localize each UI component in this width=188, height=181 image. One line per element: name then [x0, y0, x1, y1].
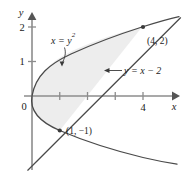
point-dot-1-neg1: [58, 128, 62, 132]
point-label-4-2: (4, 2): [147, 36, 168, 47]
shaded-region: [32, 27, 142, 131]
parabola-equation-base: x = y: [50, 35, 72, 46]
origin-label: 0: [21, 101, 26, 112]
point-dot-4-2: [141, 25, 145, 29]
line-equation-label: y = x − 2: [123, 65, 161, 76]
x-axis-arrowhead: [172, 92, 180, 101]
y-axis-arrowhead: [28, 12, 37, 20]
y-tick-label-1: 1: [19, 56, 24, 67]
point-label-1-neg1: (1, −1): [66, 126, 92, 137]
parabola-equation-label: x = y2: [50, 31, 76, 47]
y-axis-label: y: [18, 7, 24, 18]
figure-canvas: y x 0 1 2 4 x = y2 y = x − 2 (4, 2) (1, …: [0, 0, 188, 181]
x-axis-label: x: [171, 101, 177, 112]
math-figure: y x 0 1 2 4 x = y2 y = x − 2 (4, 2) (1, …: [0, 0, 188, 181]
parabola-equation-exponent: 2: [72, 31, 76, 39]
x-tick-label-4: 4: [140, 102, 146, 113]
y-tick-label-2: 2: [19, 22, 24, 33]
